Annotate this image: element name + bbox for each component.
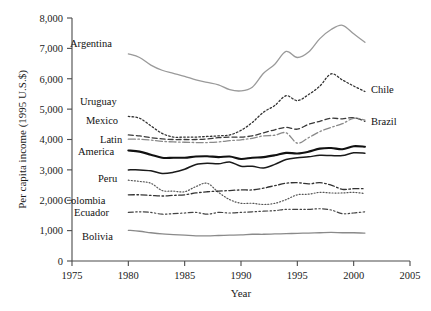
- x-tick-label: 1980: [118, 270, 139, 281]
- series-label-ecuador: Ecuador: [74, 207, 109, 218]
- x-axis: 1975198019851990199520002005: [62, 261, 421, 281]
- y-tick-label: 1,000: [39, 225, 63, 236]
- y-tick-label: 5,000: [39, 104, 63, 115]
- series-line-peru: [128, 180, 365, 204]
- series-label-brazil: Brazil: [371, 116, 397, 127]
- series-line-ecuador: [128, 209, 365, 215]
- line-chart-plot: 01,0002,0003,0004,0005,0006,0007,0008,00…: [0, 0, 431, 311]
- series-label-colombia: Colombia: [64, 195, 106, 206]
- series-labels: ArgentinaUruguayMexicoLatinAmericaPeruCo…: [64, 38, 397, 242]
- series-label-uruguay: Uruguay: [80, 96, 117, 107]
- y-tick-label: 7,000: [39, 43, 63, 54]
- series-label-chile: Chile: [371, 84, 394, 95]
- series-label-latin-1: Latin: [100, 134, 123, 145]
- x-tick-label: 1975: [62, 270, 83, 281]
- y-axis-title: Per capita income (1995 U.S.$): [16, 70, 29, 209]
- series-lines: [128, 25, 365, 236]
- y-tick-label: 0: [58, 256, 63, 267]
- y-tick-label: 3,000: [39, 165, 63, 176]
- y-tick-label: 6,000: [39, 74, 63, 85]
- y-axis: 01,0002,0003,0004,0005,0006,0007,0008,00…: [39, 13, 72, 267]
- series-label-latin-2: America: [78, 146, 114, 157]
- x-tick-label: 1985: [174, 270, 195, 281]
- series-label-peru: Peru: [98, 173, 118, 184]
- x-tick-label: 1990: [231, 270, 252, 281]
- series-line-brazil: [128, 153, 365, 174]
- series-line-latin-america: [128, 146, 365, 159]
- x-tick-label: 2005: [400, 270, 421, 281]
- series-label-bolivia: Bolivia: [82, 231, 113, 242]
- series-line-colombia: [128, 183, 365, 196]
- series-line-argentina: [128, 25, 365, 91]
- y-tick-label: 4,000: [39, 134, 63, 145]
- series-label-argentina: Argentina: [70, 38, 112, 49]
- chart-container: 01,0002,0003,0004,0005,0006,0007,0008,00…: [0, 0, 431, 311]
- series-line-bolivia: [128, 230, 365, 236]
- y-tick-label: 8,000: [39, 13, 63, 24]
- y-tick-label: 2,000: [39, 195, 63, 206]
- x-axis-title: Year: [231, 287, 252, 299]
- x-tick-label: 2000: [343, 270, 364, 281]
- series-label-mexico: Mexico: [86, 115, 118, 126]
- x-tick-label: 1995: [287, 270, 308, 281]
